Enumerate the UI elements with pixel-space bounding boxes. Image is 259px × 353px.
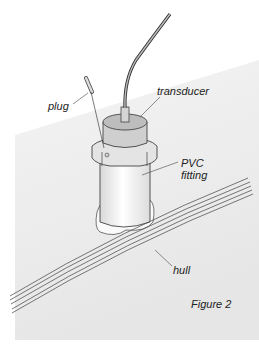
label-fitting: fitting [181,169,207,181]
transducer-installation-diagram: plug transducer PVC fitting hull Figure … [0,0,259,353]
label-pvc: PVC [181,157,204,169]
figure-caption: Figure 2 [191,298,231,310]
label-hull: hull [173,264,190,276]
label-transducer: transducer [157,85,209,97]
label-plug: plug [48,100,69,112]
